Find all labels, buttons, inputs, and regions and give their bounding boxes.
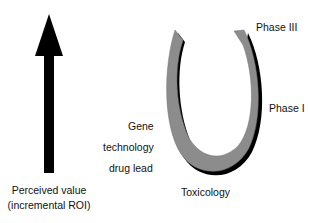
- incremental-roi-label: (incremental ROI): [0, 199, 98, 211]
- up-arrow-icon: [35, 14, 63, 173]
- gene-label: Gene: [128, 120, 154, 132]
- technology-label: technology: [103, 141, 154, 153]
- phase-1-label: Phase I: [269, 102, 305, 114]
- toxicology-label: Toxicology: [181, 186, 230, 198]
- perceived-value-label: Perceived value: [0, 184, 98, 196]
- clipped-caption: [152, 216, 277, 223]
- phase-3-label: Phase III: [256, 21, 297, 33]
- drug-lead-label: drug lead: [109, 162, 153, 174]
